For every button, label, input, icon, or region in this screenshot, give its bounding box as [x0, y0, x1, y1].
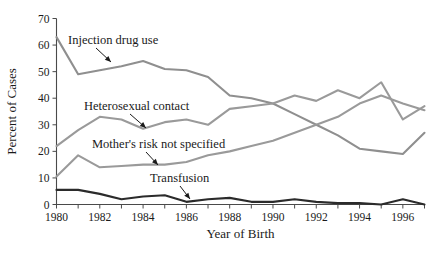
- series-leader-arrow-transfusion: [184, 193, 190, 199]
- y-tick-label: 20: [38, 145, 50, 157]
- x-tick-label: 1982: [88, 211, 111, 223]
- y-tick-label: 70: [38, 13, 50, 25]
- x-tick-label: 1984: [132, 211, 155, 223]
- y-tick-label: 0: [44, 199, 50, 211]
- series-label-transfusion: Transfusion: [150, 171, 210, 185]
- x-tick-label: 1980: [45, 211, 68, 223]
- series-label-heterosexual-contact: Heterosexual contact: [84, 99, 190, 113]
- y-tick-label: 50: [38, 66, 50, 78]
- x-tick-label: 1996: [391, 211, 414, 223]
- series-line-transfusion: [57, 190, 425, 205]
- chart-figure: 0102030405060701980198219841986198819901…: [0, 0, 441, 256]
- y-tick-label: 60: [38, 39, 50, 51]
- y-tick-label: 40: [38, 92, 50, 104]
- x-tick-label: 1990: [261, 211, 284, 223]
- x-tick-label: 1988: [218, 211, 241, 223]
- x-tick-label: 1986: [175, 211, 198, 223]
- series-label-injection-drug-use: Injection drug use: [68, 33, 159, 47]
- line-chart: 0102030405060701980198219841986198819901…: [0, 0, 441, 256]
- x-tick-label: 1994: [348, 211, 371, 223]
- y-tick-label: 10: [38, 172, 50, 184]
- series-label-mother-s-risk-not-specified: Mother's risk not specified: [92, 137, 226, 151]
- y-tick-label: 30: [38, 119, 50, 131]
- y-axis-title: Percent of Cases: [4, 68, 19, 155]
- x-axis-title: Year of Birth: [206, 226, 275, 241]
- x-tick-label: 1992: [305, 211, 328, 223]
